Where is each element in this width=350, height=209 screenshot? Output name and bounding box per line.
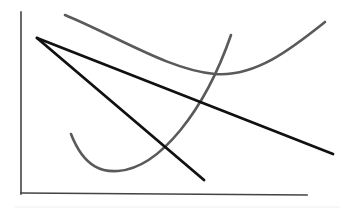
- diagram-canvas: [0, 0, 350, 209]
- lines-group: [37, 38, 333, 180]
- line-diagram: [0, 0, 350, 209]
- curves-group: [65, 15, 325, 171]
- black-line-steep: [37, 38, 204, 180]
- black-line-long: [37, 38, 333, 154]
- x-axis: [21, 193, 307, 195]
